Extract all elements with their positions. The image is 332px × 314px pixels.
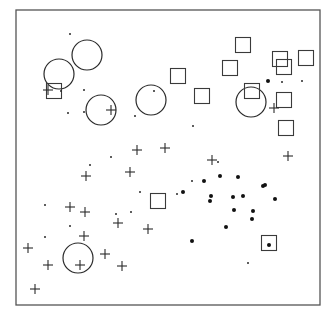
cross-marker bbox=[113, 218, 123, 228]
large-dot-marker bbox=[263, 183, 267, 187]
small-dot-marker bbox=[134, 115, 136, 117]
square-marker bbox=[171, 69, 186, 84]
small-dot-marker bbox=[130, 211, 132, 213]
small-dot-marker bbox=[176, 193, 178, 195]
circle-marker bbox=[236, 87, 266, 117]
cross-marker bbox=[81, 171, 91, 181]
cross-marker bbox=[132, 145, 142, 155]
small-dot-marker bbox=[281, 81, 283, 83]
cross-marker bbox=[207, 155, 217, 165]
cross-marker bbox=[125, 167, 135, 177]
large-dot-marker bbox=[241, 194, 245, 198]
large-dot-marker bbox=[231, 195, 235, 199]
large-dot-marker bbox=[218, 174, 222, 178]
large-dot-marker bbox=[236, 175, 240, 179]
square-marker bbox=[151, 194, 166, 209]
plot-frame bbox=[16, 10, 320, 305]
square-marker bbox=[223, 61, 238, 76]
small-dot-marker bbox=[67, 112, 69, 114]
large-dot-marker bbox=[208, 199, 212, 203]
small-dot-marker bbox=[301, 80, 303, 82]
large-dot-marker bbox=[267, 243, 271, 247]
circle-marker bbox=[72, 40, 102, 70]
small-dot-marker bbox=[110, 156, 112, 158]
large-dot-markers-group bbox=[181, 79, 277, 247]
square-marker bbox=[236, 38, 251, 53]
cross-marker bbox=[106, 105, 116, 115]
small-dot-marker bbox=[44, 236, 46, 238]
large-dot-marker bbox=[209, 194, 213, 198]
large-dot-marker bbox=[190, 239, 194, 243]
large-dot-marker bbox=[202, 179, 206, 183]
small-dot-markers-group bbox=[44, 33, 303, 264]
cross-marker bbox=[80, 207, 90, 217]
square-marker bbox=[299, 51, 314, 66]
cross-marker bbox=[65, 202, 75, 212]
cross-marker bbox=[30, 284, 40, 294]
small-dot-marker bbox=[247, 262, 249, 264]
small-dot-marker bbox=[60, 90, 62, 92]
square-marker bbox=[279, 121, 294, 136]
small-dot-marker bbox=[44, 204, 46, 206]
small-dot-marker bbox=[217, 161, 219, 163]
large-dot-marker bbox=[250, 217, 254, 221]
circle-markers-group bbox=[44, 40, 266, 273]
scatter-diagram bbox=[0, 0, 332, 314]
large-dot-marker bbox=[273, 197, 277, 201]
cross-marker bbox=[117, 261, 127, 271]
cross-marker bbox=[143, 224, 153, 234]
small-dot-marker bbox=[139, 191, 141, 193]
large-dot-marker bbox=[266, 79, 270, 83]
square-marker bbox=[277, 93, 292, 108]
cross-marker bbox=[23, 243, 33, 253]
large-dot-marker bbox=[232, 208, 236, 212]
cross-marker bbox=[43, 260, 53, 270]
large-dot-marker bbox=[181, 190, 185, 194]
square-marker bbox=[245, 84, 260, 99]
small-dot-marker bbox=[83, 111, 85, 113]
small-dot-marker bbox=[89, 164, 91, 166]
small-dot-marker bbox=[153, 90, 155, 92]
circle-marker bbox=[63, 243, 93, 273]
small-dot-marker bbox=[83, 89, 85, 91]
small-dot-marker bbox=[69, 33, 71, 35]
cross-marker bbox=[269, 103, 279, 113]
large-dot-marker bbox=[224, 225, 228, 229]
circle-marker bbox=[44, 59, 74, 89]
small-dot-marker bbox=[192, 125, 194, 127]
circle-marker bbox=[136, 85, 166, 115]
large-dot-marker bbox=[251, 209, 255, 213]
small-dot-marker bbox=[69, 225, 71, 227]
cross-marker bbox=[283, 151, 293, 161]
small-dot-marker bbox=[115, 213, 117, 215]
cross-marker bbox=[75, 260, 85, 270]
cross-marker bbox=[79, 231, 89, 241]
small-dot-marker bbox=[191, 180, 193, 182]
cross-marker bbox=[160, 143, 170, 153]
cross-marker bbox=[100, 249, 110, 259]
square-marker bbox=[195, 89, 210, 104]
